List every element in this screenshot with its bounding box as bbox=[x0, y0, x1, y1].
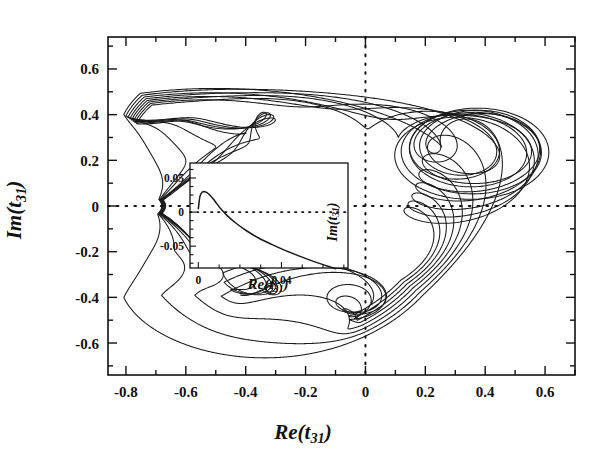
x-axis-label: Re(t31) bbox=[274, 420, 331, 447]
svg-text:0.2: 0.2 bbox=[416, 384, 435, 400]
y-axis-label-close: ) bbox=[2, 181, 26, 188]
svg-text:-0.4: -0.4 bbox=[75, 290, 99, 306]
svg-text:0: 0 bbox=[178, 206, 184, 218]
svg-text:-0.6: -0.6 bbox=[174, 384, 198, 400]
inset-x-axis-label-close: ) bbox=[284, 276, 289, 292]
inset-y-axis-label-subscript: 31 bbox=[331, 207, 341, 217]
inset-x-axis-label: Re(t31) bbox=[247, 276, 288, 294]
svg-text:-0.4: -0.4 bbox=[234, 384, 258, 400]
inset-x-axis-label-text: Re(t bbox=[247, 276, 273, 292]
svg-text:0.2: 0.2 bbox=[80, 153, 99, 169]
y-axis-label: Im(t31) bbox=[2, 181, 29, 240]
inset-y-axis-label-close: ) bbox=[325, 202, 340, 207]
y-axis-label-subscript: 31 bbox=[13, 188, 29, 202]
svg-text:0.6: 0.6 bbox=[536, 384, 555, 400]
x-axis-label-close: ) bbox=[325, 420, 332, 444]
main-plot-svg: -0.8-0.6-0.4-0.200.20.40.6-0.6-0.4-0.200… bbox=[0, 0, 606, 464]
svg-text:-0.6: -0.6 bbox=[75, 336, 99, 352]
x-axis-label-text: Re(t bbox=[274, 420, 310, 444]
figure-root: -0.8-0.6-0.4-0.200.20.40.6-0.6-0.4-0.200… bbox=[0, 0, 606, 464]
y-axis-label-text: Im(t bbox=[2, 202, 26, 239]
inset-y-axis-label: Im(t31) bbox=[325, 202, 342, 241]
svg-text:-0.2: -0.2 bbox=[294, 384, 318, 400]
inset-x-axis-label-subscript: 31 bbox=[273, 283, 283, 294]
svg-text:-0.8: -0.8 bbox=[114, 384, 138, 400]
svg-text:0: 0 bbox=[362, 384, 370, 400]
svg-text:0.4: 0.4 bbox=[476, 384, 495, 400]
inset-y-axis-label-text: Im(t bbox=[325, 217, 340, 242]
svg-text:0.4: 0.4 bbox=[80, 107, 99, 123]
svg-text:-0.2: -0.2 bbox=[75, 244, 99, 260]
svg-text:0.05: 0.05 bbox=[164, 172, 184, 184]
svg-text:-0.05: -0.05 bbox=[160, 240, 184, 252]
svg-text:0: 0 bbox=[195, 274, 201, 286]
svg-text:0: 0 bbox=[92, 199, 100, 215]
svg-text:0.6: 0.6 bbox=[80, 61, 99, 77]
x-axis-label-subscript: 31 bbox=[310, 430, 324, 446]
